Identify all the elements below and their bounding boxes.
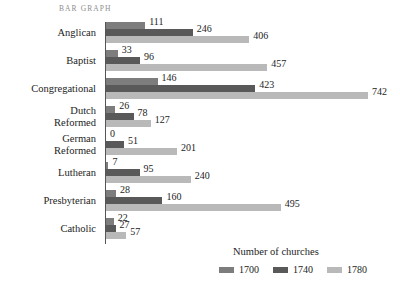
bar-value-label: 406 bbox=[253, 31, 268, 41]
bar-value-label: 160 bbox=[166, 192, 181, 202]
bar-value-label: 201 bbox=[181, 143, 196, 153]
bar-value-label: 111 bbox=[149, 17, 163, 27]
bar-1700-congregational bbox=[106, 78, 158, 85]
bar-value-label: 240 bbox=[195, 171, 210, 181]
bar-1740-anglican bbox=[106, 29, 193, 36]
bar-value-label: 51 bbox=[128, 136, 138, 146]
bar-1700-anglican bbox=[106, 22, 145, 29]
bar-1700-baptist bbox=[106, 50, 118, 57]
bar-value-label: 246 bbox=[197, 24, 212, 34]
legend-label: 1780 bbox=[347, 264, 367, 275]
legend-items: 170017401780 bbox=[219, 264, 381, 275]
bar-value-label: 146 bbox=[162, 73, 177, 83]
bar-value-label: 78 bbox=[138, 108, 148, 118]
bar-1780-anglican bbox=[106, 36, 249, 43]
bar-value-label: 742 bbox=[372, 87, 387, 97]
category-label: German Reformed bbox=[0, 133, 96, 156]
bar-graph-figure: BAR GRAPH Anglican111246406Baptist339645… bbox=[0, 0, 400, 292]
category-label: Lutheran bbox=[0, 167, 96, 179]
legend-swatch-icon bbox=[327, 267, 342, 273]
bar-1740-presbyterian bbox=[106, 197, 162, 204]
bar-value-label: 0 bbox=[110, 129, 115, 139]
plot-area: Anglican111246406Baptist3396457Congregat… bbox=[0, 20, 400, 245]
bar-value-label: 57 bbox=[130, 227, 140, 237]
category-label: Anglican bbox=[0, 27, 96, 39]
bar-1780-dutch-reformed bbox=[106, 120, 151, 127]
bar-1780-catholic bbox=[106, 232, 126, 239]
chart-legend: Number of churches 170017401780 bbox=[0, 246, 400, 292]
bar-1740-congregational bbox=[106, 85, 255, 92]
bar-value-label: 95 bbox=[144, 164, 154, 174]
legend-label: 1740 bbox=[293, 264, 313, 275]
legend-item-1740[interactable]: 1740 bbox=[273, 264, 313, 275]
bar-1700-lutheran bbox=[106, 162, 108, 169]
bar-value-label: 26 bbox=[119, 101, 129, 111]
legend-label: 1700 bbox=[239, 264, 259, 275]
bar-1740-german-reformed bbox=[106, 141, 124, 148]
bar-value-label: 7 bbox=[112, 157, 117, 167]
legend-item-1780[interactable]: 1780 bbox=[327, 264, 367, 275]
category-label: Baptist bbox=[0, 55, 96, 67]
bar-1780-lutheran bbox=[106, 176, 191, 183]
bar-1740-dutch-reformed bbox=[106, 113, 134, 120]
bar-1740-lutheran bbox=[106, 169, 140, 176]
legend-swatch-icon bbox=[273, 267, 288, 273]
bar-1780-baptist bbox=[106, 64, 267, 71]
category-label: Dutch Reformed bbox=[0, 105, 96, 128]
bar-1700-catholic bbox=[106, 218, 114, 225]
bar-1740-catholic bbox=[106, 225, 116, 232]
bar-value-label: 495 bbox=[285, 199, 300, 209]
category-label: Catholic bbox=[0, 223, 96, 235]
bar-1700-dutch-reformed bbox=[106, 106, 115, 113]
bar-value-label: 423 bbox=[259, 80, 274, 90]
category-label: Congregational bbox=[0, 83, 96, 95]
legend-swatch-icon bbox=[219, 267, 234, 273]
category-label: Presbyterian bbox=[0, 195, 96, 207]
legend-item-1700[interactable]: 1700 bbox=[219, 264, 259, 275]
bar-value-label: 33 bbox=[122, 45, 132, 55]
bar-value-label: 96 bbox=[144, 52, 154, 62]
bar-value-label: 127 bbox=[155, 115, 170, 125]
bar-value-label: 28 bbox=[120, 185, 130, 195]
bar-1700-presbyterian bbox=[106, 190, 116, 197]
figure-label: BAR GRAPH bbox=[59, 4, 112, 13]
bar-1780-german-reformed bbox=[106, 148, 177, 155]
bar-1780-presbyterian bbox=[106, 204, 281, 211]
bar-1740-baptist bbox=[106, 57, 140, 64]
bar-1780-congregational bbox=[106, 92, 368, 99]
legend-title: Number of churches bbox=[233, 246, 319, 257]
bar-value-label: 27 bbox=[120, 220, 130, 230]
bar-value-label: 457 bbox=[271, 59, 286, 69]
